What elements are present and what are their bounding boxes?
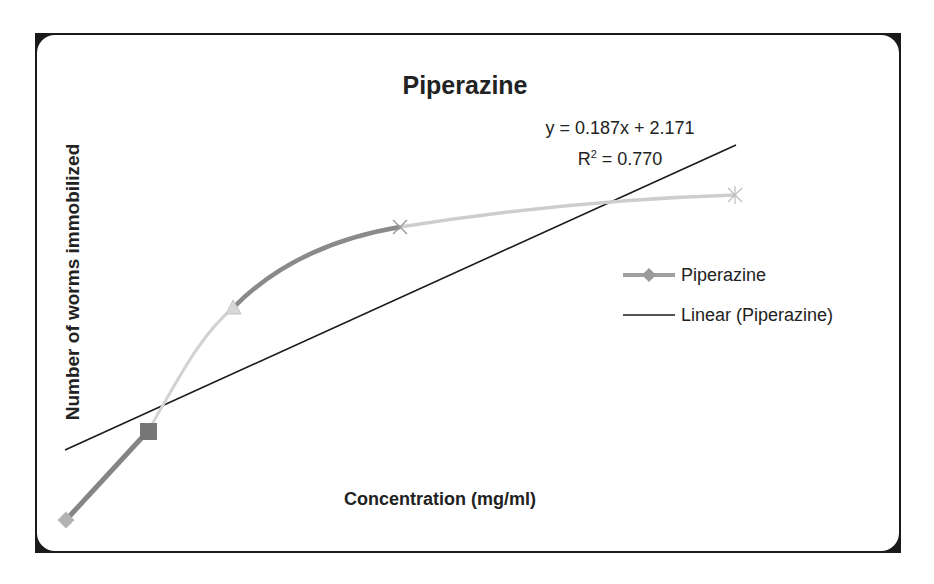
diamond-line-icon [623,267,675,283]
series-segment-3 [233,227,400,308]
legend-label: Piperazine [681,265,766,286]
legend: Piperazine Linear (Piperazine) [623,255,833,335]
trendline-equation: y = 0.187x + 2.171 [520,115,720,141]
r-squared-prefix: R [578,149,591,169]
line-icon [623,307,675,323]
r-squared-value: = 0.770 [597,149,663,169]
legend-label: Linear (Piperazine) [681,305,833,326]
r-squared-label: R2 = 0.770 [520,141,720,172]
y-axis-label: Number of worms immobilized [62,144,84,421]
legend-item-linear-piperazine[interactable]: Linear (Piperazine) [623,295,833,335]
series-segment-2 [148,308,233,431]
chart-title: Piperazine [360,71,570,100]
trendline-equation-box: y = 0.187x + 2.171 R2 = 0.770 [520,115,720,172]
legend-item-piperazine[interactable]: Piperazine [623,255,833,295]
square-marker[interactable] [140,423,157,440]
x-axis-label: Concentration (mg/ml) [344,489,536,510]
